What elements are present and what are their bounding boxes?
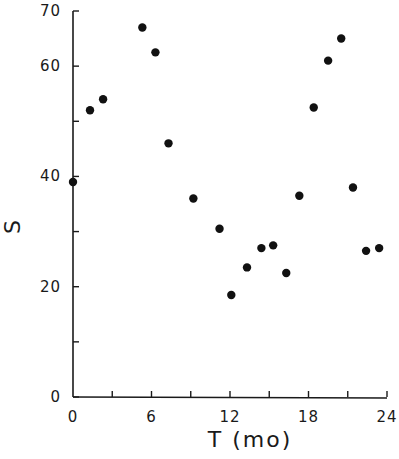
x-tick-label: 12 [219, 408, 240, 426]
x-axis: 06121824 [68, 391, 398, 426]
data-point [337, 34, 345, 42]
data-point [310, 103, 318, 111]
data-point [86, 106, 94, 114]
y-tick-label: 0 [50, 388, 61, 406]
data-point [349, 183, 357, 191]
data-point [243, 263, 251, 271]
x-tick-label: 24 [376, 408, 397, 426]
y-tick-label: 40 [40, 167, 61, 185]
data-point [151, 48, 159, 56]
scatter-chart: 020406070 06121824 S T (mo) [0, 0, 399, 459]
y-tick-label: 60 [40, 57, 61, 75]
data-point [189, 194, 197, 202]
y-tick-label: 70 [40, 2, 61, 20]
data-point [138, 23, 146, 31]
y-axis: 020406070 [40, 2, 79, 406]
data-point [282, 269, 290, 277]
data-point [362, 247, 370, 255]
data-point [257, 244, 265, 252]
y-axis-label: S [0, 218, 25, 234]
data-point [269, 241, 277, 249]
data-point [295, 192, 303, 200]
data-point [375, 244, 383, 252]
x-axis-label: T (mo) [207, 427, 293, 452]
data-point [69, 178, 77, 186]
x-tick-label: 0 [68, 408, 79, 426]
data-point [215, 225, 223, 233]
y-tick-label: 20 [40, 278, 61, 296]
data-point [164, 139, 172, 147]
x-tick-label: 18 [298, 408, 319, 426]
data-point [227, 291, 235, 299]
data-point [324, 56, 332, 64]
data-points [69, 23, 384, 299]
x-tick-label: 6 [146, 408, 157, 426]
data-point [99, 95, 107, 103]
